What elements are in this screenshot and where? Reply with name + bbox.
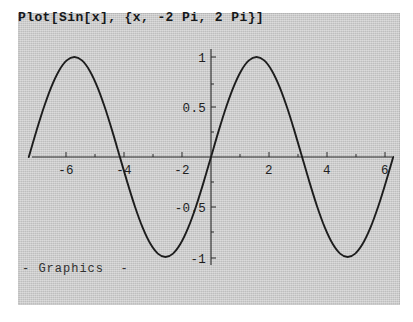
mathematica-output-screenshot: -6 -4 -2 2 4 6 1 0.5 -0.5 -1 Plot[Sin[x]… (0, 0, 413, 322)
x-tick-label-4: 4 (323, 164, 331, 178)
graphics-output-label: - Graphics - (22, 262, 129, 276)
x-tick-marks (66, 152, 385, 157)
y-tick-label-half: 0.5 (183, 102, 206, 116)
x-tick-label-minus2: -2 (174, 164, 190, 178)
x-tick-label-minus6: -6 (58, 164, 74, 178)
y-tick-label-minus-half: -0.5 (175, 202, 206, 216)
plot-input-title: Plot[Sin[x], {x, -2 Pi, 2 Pi}] (18, 10, 264, 25)
x-tick-label-2: 2 (265, 164, 273, 178)
y-tick-label-minus1: -1 (190, 253, 206, 267)
y-tick-label-1: 1 (198, 52, 206, 66)
